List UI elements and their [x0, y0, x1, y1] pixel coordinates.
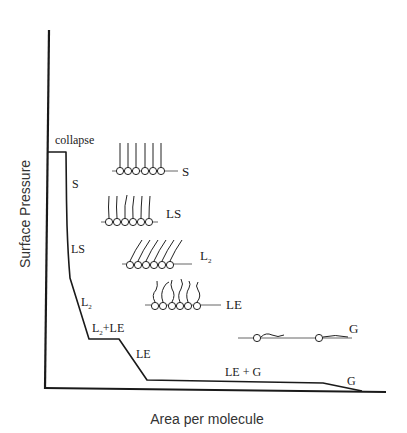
- label-collapse: collapse: [55, 133, 94, 147]
- label-curve-g: G: [347, 374, 356, 388]
- molecule: [159, 282, 169, 310]
- molecule: [141, 143, 148, 175]
- molecules-g-phase: G: [238, 321, 358, 342]
- molecules-l2-phase: L2: [122, 240, 212, 269]
- label-phase-l2: L2: [200, 248, 212, 265]
- label-curve-le: LE: [136, 347, 151, 361]
- label-curve-le-g: LE + G: [225, 365, 261, 379]
- molecule: [137, 196, 144, 226]
- x-axis: [44, 388, 386, 392]
- label-curve-ls: LS: [71, 242, 85, 256]
- y-axis: [45, 30, 49, 389]
- molecules-le-phase: LE: [145, 279, 242, 312]
- molecule: [184, 281, 191, 310]
- molecule: [176, 279, 183, 310]
- molecules-s-phase: S: [112, 143, 189, 179]
- molecule: [121, 195, 128, 226]
- molecules-ls-phase: LS: [101, 195, 181, 226]
- molecule: [151, 281, 158, 310]
- molecule: [105, 196, 112, 226]
- label-curve-l2: L2: [81, 295, 92, 311]
- molecule: [132, 143, 139, 175]
- label-curve-s: S: [72, 177, 79, 191]
- isotherm-diagram: Surface Pressure Area per molecule colla…: [0, 0, 407, 433]
- molecule: [168, 280, 175, 310]
- molecule: [116, 143, 123, 175]
- molecule: [145, 196, 152, 226]
- x-axis-label: Area per molecule: [150, 411, 264, 427]
- molecule: [157, 143, 164, 175]
- label-phase-ls: LS: [166, 206, 181, 221]
- molecule: [124, 143, 131, 175]
- molecule: [129, 196, 136, 226]
- molecule: [149, 143, 156, 175]
- molecule: [113, 196, 120, 226]
- label-phase-s: S: [182, 164, 189, 179]
- isotherm-curve: [47, 152, 362, 391]
- y-axis-label: Surface Pressure: [17, 160, 33, 268]
- label-phase-le: LE: [226, 297, 242, 312]
- label-phase-g: G: [349, 321, 358, 336]
- molecule: [193, 282, 200, 310]
- label-curve-l2-le: L2+LE: [92, 321, 124, 337]
